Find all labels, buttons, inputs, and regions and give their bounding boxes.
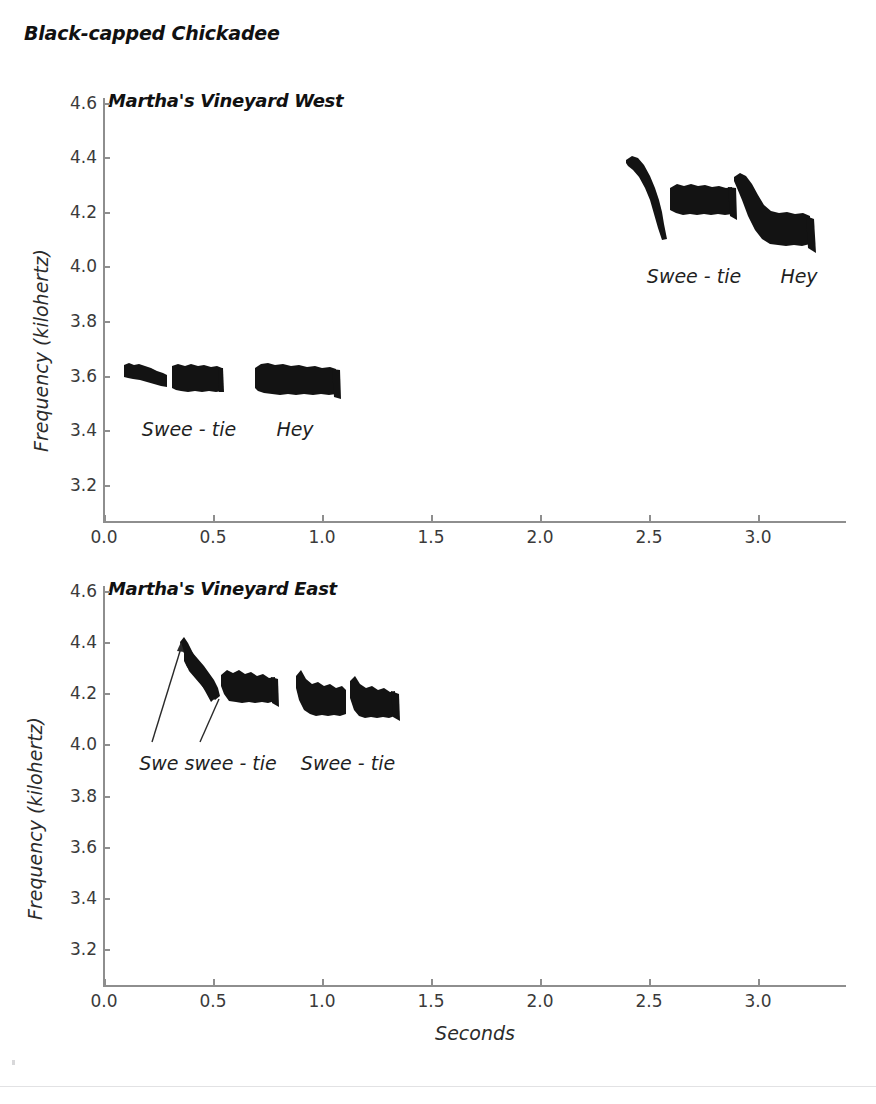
x-tick-label-west-6: 3.0 [744,527,771,547]
trace-east-swe [180,637,216,702]
leader-line-swee [200,699,219,742]
x-tick-label-east-2: 1.0 [308,991,335,1011]
trace-label-east-swe-swee-tie: Swe swee - tie [139,752,277,774]
trace-east-swee-b [186,655,218,700]
x-tick-west-4 [540,515,542,522]
trace-east-tie2 [350,676,395,718]
y-axis-line-west [103,98,105,522]
trace-east-tie2-tail [391,691,400,721]
y-tick-east-3 [103,744,110,746]
y-tick-east-7 [103,949,110,951]
y-tick-east-2 [103,693,110,695]
x-tick-east-5 [649,979,651,986]
x-tick-east-3 [431,979,433,986]
page-title: Black-capped Chickadee [24,22,280,44]
y-tick-label-east-7: 3.2 [55,939,97,959]
trace-west-hey-2 [734,173,810,246]
x-tick-label-east-4: 2.0 [526,991,553,1011]
trace-label-west-swee-tie-high: Swee - tie [647,265,741,287]
x-tick-east-0 [104,979,106,986]
y-axis-title-east: Frequency (kilohertz) [24,717,46,920]
x-tick-label-east-0: 0.0 [90,991,117,1011]
trace-group-east-song2 [296,670,400,721]
trace-west-swee-2 [626,156,667,240]
trace-west-hey-1 [255,363,336,395]
trace-east-tie1 [221,670,275,703]
x-tick-west-6 [758,515,760,522]
y-tick-east-5 [103,847,110,849]
y-tick-label-west-5: 3.6 [55,366,97,386]
bottom-divider [0,1086,876,1087]
trace-west-hey-2-tail [806,216,816,253]
trace-west-tie-1 [172,364,222,392]
y-tick-label-west-4: 3.8 [55,311,97,331]
x-tick-west-1 [213,515,215,522]
y-tick-label-east-0: 4.6 [55,581,97,601]
y-tick-west-2 [103,212,110,214]
y-tick-label-west-1: 4.4 [55,147,97,167]
y-tick-label-west-3: 4.0 [55,256,97,276]
y-tick-label-east-1: 4.4 [55,632,97,652]
y-tick-west-4 [103,321,110,323]
y-tick-east-4 [103,796,110,798]
x-tick-label-east-5: 2.5 [635,991,662,1011]
y-tick-east-0 [103,591,110,593]
trace-west-hey-1-tail [332,369,341,399]
trace-group-west-high [626,156,816,253]
trace-label-west-hey-low: Hey [276,418,313,440]
y-tick-label-west-0: 4.6 [55,93,97,113]
x-tick-west-0 [104,515,106,522]
y-axis-line-east [103,586,105,986]
leader-line-swe [152,648,181,742]
y-tick-east-1 [103,642,110,644]
y-tick-label-west-6: 3.4 [55,420,97,440]
y-tick-west-6 [103,430,110,432]
trace-label-west-hey-high: Hey [780,265,817,287]
x-tick-label-east-3: 1.5 [417,991,444,1011]
panel-title-east: Martha's Vineyard East [108,578,337,599]
y-tick-west-3 [103,266,110,268]
x-tick-label-east-6: 3.0 [744,991,771,1011]
trace-group-east-song1 [180,637,279,707]
y-tick-label-west-2: 4.2 [55,202,97,222]
x-tick-label-west-3: 1.5 [417,527,444,547]
x-tick-label-west-2: 1.0 [308,527,335,547]
y-tick-label-east-4: 3.8 [55,786,97,806]
x-tick-label-west-4: 2.0 [526,527,553,547]
trace-label-west-swee-tie-low: Swee - tie [142,418,236,440]
spectrogram-traces [0,0,876,1104]
page-corner-mark [12,1060,15,1065]
trace-west-tie-2 [670,184,732,215]
y-axis-title-west: Frequency (kilohertz) [30,249,52,452]
x-tick-east-6 [758,979,760,986]
x-tick-east-4 [540,979,542,986]
trace-group-west-low [124,363,341,399]
y-tick-east-6 [103,898,110,900]
x-axis-title: Seconds [435,1022,515,1044]
trace-east-swee [184,648,220,700]
x-tick-label-west-0: 0.0 [90,527,117,547]
spectrogram-figure: Black-capped Chickadee Martha's Vineyard… [0,0,876,1104]
x-tick-label-west-1: 0.5 [199,527,226,547]
y-tick-label-west-7: 3.2 [55,475,97,495]
trace-west-swee-1 [124,363,167,387]
trace-label-east-swee-tie: Swee - tie [301,752,395,774]
x-tick-label-west-5: 2.5 [635,527,662,547]
leader-arrow-swe [177,642,184,652]
y-tick-west-0 [103,103,110,105]
x-tick-west-5 [649,515,651,522]
y-tick-west-5 [103,376,110,378]
x-tick-east-1 [213,979,215,986]
y-tick-label-east-5: 3.6 [55,837,97,857]
x-tick-east-2 [322,979,324,986]
panel-title-west: Martha's Vineyard West [108,90,343,111]
x-tick-west-3 [431,515,433,522]
leader-lines-east [152,642,219,742]
y-tick-west-1 [103,157,110,159]
y-tick-label-east-2: 4.2 [55,683,97,703]
trace-west-tie-1-tail [218,368,224,392]
y-tick-label-east-6: 3.4 [55,888,97,908]
trace-east-tie1-tail [271,677,279,707]
x-tick-west-2 [322,515,324,522]
y-tick-west-7 [103,485,110,487]
